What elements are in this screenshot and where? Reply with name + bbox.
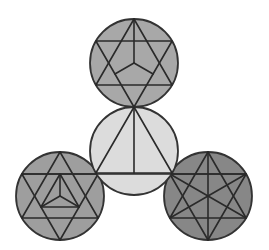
geometric-diagram [0, 0, 269, 250]
bottom-right-circle-group [164, 152, 252, 240]
diagram-canvas [0, 0, 269, 250]
bottom-left-circle-group [16, 152, 104, 240]
top-circle-group [90, 19, 178, 107]
